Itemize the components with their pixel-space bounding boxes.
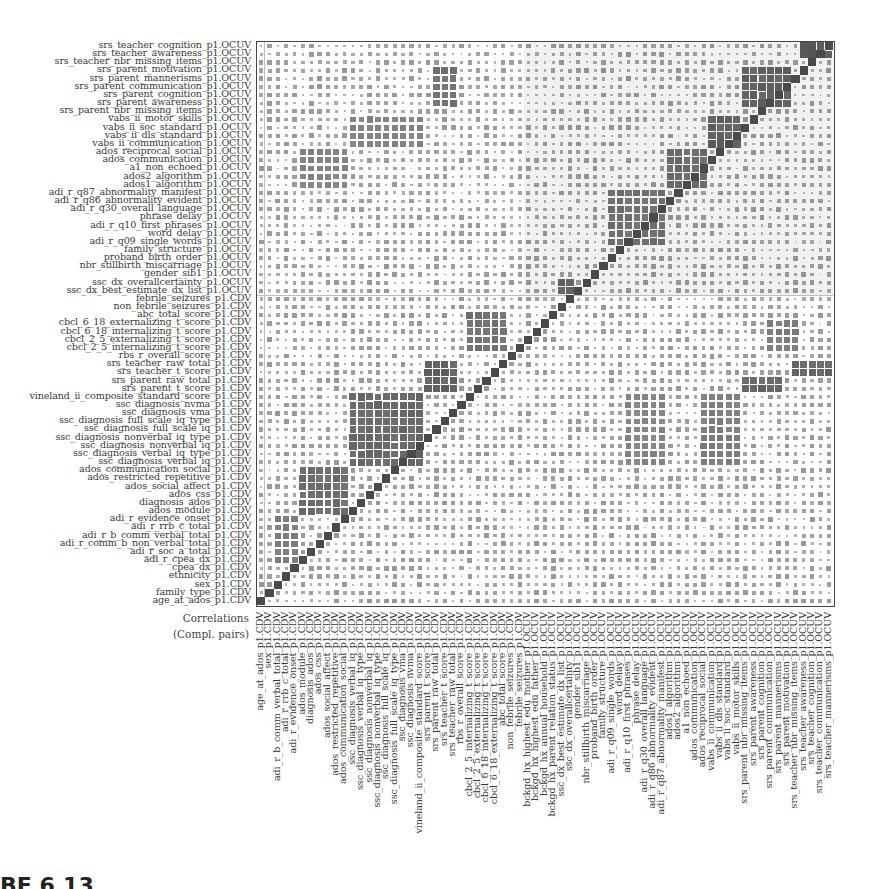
correlation-cell — [733, 116, 740, 123]
correlation-cell — [752, 199, 755, 202]
correlation-cell — [510, 330, 512, 332]
correlation-cell — [585, 420, 588, 423]
correlation-cell — [301, 542, 305, 546]
correlation-cell — [418, 208, 421, 211]
correlation-cell — [643, 77, 647, 81]
correlation-cell — [435, 509, 439, 513]
correlation-cell — [476, 166, 480, 170]
correlation-cell — [460, 452, 464, 456]
correlation-cell — [710, 272, 715, 277]
correlation-cell — [752, 346, 755, 349]
correlation-cell — [727, 297, 731, 301]
correlation-cell — [485, 558, 489, 562]
correlation-cell — [727, 183, 730, 186]
correlation-cell — [418, 109, 422, 113]
correlation-cell — [376, 386, 381, 391]
correlation-cell — [694, 445, 696, 447]
correlation-cell — [301, 591, 304, 594]
correlation-cell — [277, 168, 279, 170]
correlation-cell — [593, 395, 598, 400]
correlation-cell — [685, 444, 689, 448]
correlation-cell — [358, 125, 364, 131]
correlation-cell — [275, 199, 280, 204]
correlation-cell — [701, 435, 707, 441]
correlation-cell — [534, 158, 538, 162]
correlation-cell — [418, 68, 422, 72]
correlation-cell — [610, 395, 614, 399]
correlation-cell — [602, 192, 605, 195]
correlation-cell — [508, 352, 516, 360]
correlation-cell — [744, 339, 746, 341]
correlation-cell — [275, 516, 281, 522]
correlation-cell — [444, 543, 446, 545]
correlation-cell — [644, 527, 646, 529]
correlation-cell — [710, 150, 713, 153]
correlation-cell — [610, 428, 613, 431]
correlation-cell — [468, 208, 471, 211]
correlation-cell — [586, 486, 588, 488]
correlation-cell — [659, 402, 665, 408]
correlation-cell — [325, 157, 331, 163]
correlation-cell — [735, 191, 739, 195]
correlation-cell — [693, 134, 697, 138]
correlation-cell — [501, 93, 505, 97]
correlation-cell — [552, 94, 554, 96]
correlation-cell — [276, 109, 280, 113]
correlation-cell — [618, 362, 623, 367]
correlation-cell — [626, 525, 630, 529]
correlation-cell — [718, 101, 722, 105]
correlation-cell — [527, 216, 529, 218]
correlation-cell — [527, 428, 530, 431]
correlation-cell — [493, 452, 496, 455]
correlation-cell — [519, 526, 521, 528]
correlation-cell — [335, 232, 339, 236]
correlation-cell — [335, 241, 338, 244]
correlation-cell — [502, 469, 505, 472]
correlation-cell — [736, 575, 739, 578]
correlation-cell — [284, 362, 288, 366]
correlation-cell — [810, 468, 814, 472]
correlation-cell — [777, 476, 781, 480]
correlation-cell — [651, 182, 656, 187]
correlation-cell — [736, 510, 739, 513]
correlation-cell — [276, 273, 279, 276]
correlation-cell — [577, 134, 580, 137]
correlation-cell — [369, 70, 371, 72]
correlation-cell — [259, 281, 263, 285]
correlation-cell — [752, 534, 755, 537]
correlation-cell — [752, 289, 755, 292]
correlation-cell — [352, 192, 354, 194]
correlation-cell — [827, 183, 831, 187]
correlation-cell — [268, 566, 272, 570]
correlation-cell — [710, 509, 714, 513]
correlation-cell — [268, 428, 272, 432]
correlation-cell — [636, 151, 639, 154]
correlation-cell — [785, 158, 789, 162]
correlation-cell — [510, 469, 513, 472]
correlation-cell — [493, 240, 497, 244]
correlation-cell — [535, 297, 539, 301]
correlation-cell — [694, 371, 697, 374]
correlation-cell — [827, 525, 832, 530]
correlation-cell — [802, 150, 806, 154]
correlation-cell — [793, 125, 797, 129]
correlation-cell — [485, 591, 489, 595]
correlation-cell — [476, 68, 480, 72]
correlation-cell — [776, 550, 781, 555]
correlation-cell — [827, 297, 831, 301]
correlation-cell — [602, 167, 604, 169]
correlation-cell — [333, 499, 340, 506]
correlation-cell — [385, 69, 389, 73]
correlation-cell — [443, 518, 446, 521]
correlation-cell — [476, 517, 481, 522]
correlation-cell — [677, 363, 680, 366]
correlation-cell — [358, 434, 365, 441]
correlation-cell — [777, 313, 781, 317]
correlation-cell — [702, 591, 706, 595]
correlation-cell — [735, 240, 738, 243]
correlation-cell — [769, 485, 772, 488]
correlation-cell — [719, 78, 721, 80]
correlation-cell — [751, 362, 756, 367]
correlation-cell — [367, 199, 371, 203]
correlation-cell — [293, 452, 296, 455]
